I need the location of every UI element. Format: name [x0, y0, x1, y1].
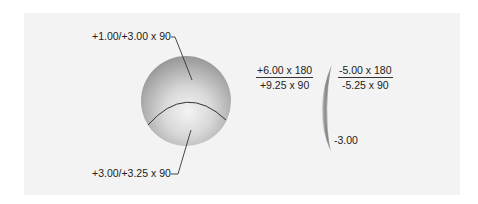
front-surface-power: +6.00 x 180 +9.25 x 90	[256, 65, 313, 90]
upper-sphere-label: +1.00/+3.00 x 90	[92, 31, 171, 42]
sphere	[141, 56, 231, 146]
back-surface-power: -5.00 x 180 -5.25 x 90	[338, 65, 393, 90]
front-surface-numerator: +6.00 x 180	[256, 65, 313, 78]
back-surface-denominator: -5.25 x 90	[338, 78, 393, 91]
front-surface-denominator: +9.25 x 90	[256, 78, 313, 91]
back-surface-numerator: -5.00 x 180	[338, 65, 393, 78]
lens-edge-label: -3.00	[334, 135, 358, 146]
lower-sphere-label: +3.00/+3.25 x 90	[92, 168, 171, 179]
diagram-graphics	[0, 0, 478, 204]
